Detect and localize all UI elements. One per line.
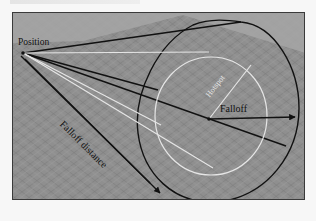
label-falloff: Falloff	[220, 104, 247, 114]
cropped-caption-strip	[10, 0, 140, 4]
spotlight-diagram-frame: Position Hotspot Falloff Falloff distanc…	[12, 12, 305, 200]
label-position: Position	[18, 38, 49, 48]
position-point	[21, 51, 25, 55]
cone-center-point	[207, 117, 211, 121]
spotlight-diagram-graphic	[13, 13, 305, 200]
